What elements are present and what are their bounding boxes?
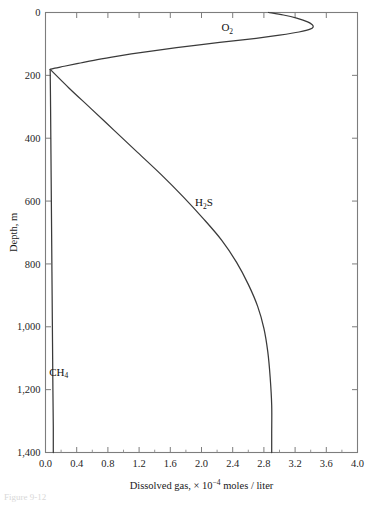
x-tick-label-0: 0.0 <box>39 458 52 469</box>
x-tick-label-8: 3.2 <box>289 458 302 469</box>
axis-titles: Depth, mDissolved gas, × 10−4 moles / li… <box>8 213 274 491</box>
curve-ch4 <box>50 69 53 452</box>
curve-label-h2s: H2S <box>195 196 213 211</box>
x-tick-label-2: 0.8 <box>101 458 114 469</box>
figure-container: 0.00.40.81.21.62.02.42.83.23.64.0 020040… <box>0 0 387 506</box>
x-tick-label-9: 3.6 <box>320 458 333 469</box>
y-axis-tick-labels: 02004006008001,0001,2001,400 <box>17 7 41 458</box>
y-tick-label-0: 0 <box>35 7 40 18</box>
y-tick-label-4: 800 <box>25 259 41 270</box>
figure-caption: Figure 9-12 <box>4 492 46 502</box>
x-tick-label-3: 1.2 <box>133 458 146 469</box>
curve-label-o2: O2 <box>221 21 233 36</box>
curve-h2s <box>50 69 272 452</box>
curve-label-ch4: CH4 <box>49 366 68 381</box>
curve-o2 <box>50 13 313 70</box>
curve-annotations: O2H2SCH4 <box>49 21 233 380</box>
y-tick-label-2: 400 <box>25 133 41 144</box>
x-tick-label-5: 2.0 <box>195 458 208 469</box>
x-tick-label-1: 0.4 <box>70 458 84 469</box>
x-axis-ticks <box>46 13 358 453</box>
x-axis-tick-labels: 0.00.40.81.21.62.02.42.83.23.64.0 <box>39 458 364 469</box>
y-tick-label-7: 1,400 <box>17 447 41 458</box>
x-axis-title: Dissolved gas, × 10−4 moles / liter <box>130 478 274 491</box>
x-tick-label-6: 2.4 <box>226 458 240 469</box>
y-axis-title: Depth, m <box>8 213 19 252</box>
y-tick-label-5: 1,000 <box>17 321 41 332</box>
y-tick-label-1: 200 <box>25 70 41 81</box>
x-tick-label-7: 2.8 <box>257 458 270 469</box>
y-axis-ticks <box>46 13 358 453</box>
x-tick-label-4: 1.6 <box>164 458 177 469</box>
x-tick-label-10: 4.0 <box>351 458 364 469</box>
plot-frame <box>46 13 358 453</box>
data-curves <box>50 13 313 453</box>
depth-profile-chart: 0.00.40.81.21.62.02.42.83.23.64.0 020040… <box>0 0 387 506</box>
y-tick-label-6: 1,200 <box>17 384 41 395</box>
y-tick-label-3: 600 <box>25 196 41 207</box>
